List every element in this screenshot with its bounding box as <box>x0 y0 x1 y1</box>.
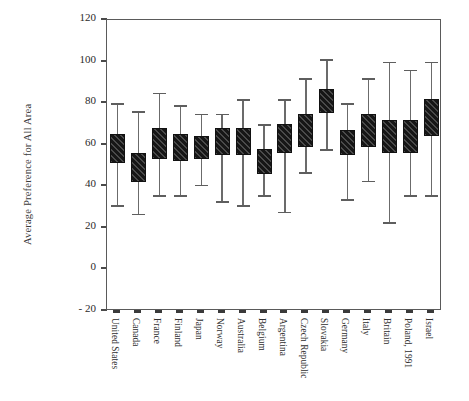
box-whisker-glyph <box>257 124 272 197</box>
box-whisker-glyph <box>131 111 146 215</box>
interquartile-box <box>382 120 397 153</box>
x-axis-category-label: Japan <box>194 318 204 340</box>
interquartile-box <box>298 114 313 147</box>
x-axis-tick <box>343 310 350 313</box>
y-axis-tick-label: 60 <box>38 136 96 148</box>
upper-whisker-line <box>347 103 348 130</box>
upper-whisker-cap <box>153 93 166 95</box>
lower-whisker-line <box>159 157 160 196</box>
lower-whisker-cap <box>383 222 396 224</box>
x-axis-tick <box>385 310 392 313</box>
y-axis-tick-label: 40 <box>38 177 96 189</box>
upper-whisker-line <box>368 78 369 113</box>
x-axis-tick <box>260 310 267 313</box>
x-axis-category-label: Slovakia <box>319 318 329 351</box>
x-axis-category-label: Czech Republic <box>299 318 309 379</box>
lower-whisker-cap <box>341 199 354 201</box>
upper-whisker-cap <box>404 70 417 72</box>
x-axis-category-label: Finland <box>173 318 183 347</box>
x-axis-category-label: Belgium <box>257 318 267 351</box>
box-plot-chart: Average Preference for All Area - 200204… <box>0 0 469 401</box>
lower-whisker-line <box>410 151 411 197</box>
box-whisker-glyph <box>173 105 188 196</box>
lower-whisker-cap <box>258 195 271 197</box>
x-axis-tick <box>427 310 434 313</box>
lower-whisker-cap <box>132 214 145 216</box>
x-axis-tick <box>301 310 308 313</box>
upper-whisker-cap <box>299 78 312 80</box>
interquartile-box <box>215 128 230 155</box>
upper-whisker-line <box>201 114 202 137</box>
upper-whisker-line <box>410 70 411 120</box>
lower-whisker-line <box>368 145 369 182</box>
x-axis-category-label: Norway <box>215 318 225 349</box>
upper-whisker-cap <box>132 111 145 113</box>
y-axis-title-label: Average Preference for All Area <box>22 104 33 245</box>
x-axis-category-label: Britain <box>382 318 392 345</box>
upper-whisker-cap <box>341 103 354 105</box>
y-axis-title: Average Preference for All Area <box>22 0 33 40</box>
x-axis-tick <box>406 310 413 313</box>
lower-whisker-line <box>221 153 222 203</box>
interquartile-box <box>173 134 188 161</box>
box-whisker-glyph <box>277 99 292 213</box>
lower-whisker-line <box>117 161 118 207</box>
upper-whisker-cap <box>320 59 333 61</box>
x-axis-tick <box>239 310 246 313</box>
interquartile-box <box>319 89 334 114</box>
plot-area <box>106 19 441 310</box>
box-whisker-glyph <box>298 78 313 174</box>
interquartile-box <box>403 120 418 153</box>
x-axis-category-label: Canada <box>131 318 141 346</box>
upper-whisker-line <box>221 114 222 129</box>
upper-whisker-line <box>159 93 160 128</box>
box-whisker-glyph <box>361 78 376 182</box>
lower-whisker-line <box>389 151 390 224</box>
interquartile-box <box>131 153 146 182</box>
y-axis-tick-label: 120 <box>38 11 96 23</box>
lower-whisker-line <box>263 172 264 197</box>
box-whisker-glyph <box>236 99 251 207</box>
upper-whisker-line <box>138 111 139 153</box>
interquartile-box <box>152 128 167 159</box>
lower-whisker-cap <box>174 195 187 197</box>
upper-whisker-cap <box>237 99 250 101</box>
upper-whisker-line <box>117 103 118 134</box>
upper-whisker-line <box>263 124 264 149</box>
upper-whisker-cap <box>216 114 229 116</box>
x-axis-tick <box>134 310 141 313</box>
x-axis-category-label: Poland, 1991 <box>403 318 413 368</box>
upper-whisker-line <box>242 99 243 128</box>
lower-whisker-line <box>180 159 181 196</box>
interquartile-box <box>361 114 376 147</box>
x-axis-tick <box>197 310 204 313</box>
interquartile-box <box>110 134 125 163</box>
upper-whisker-cap <box>111 103 124 105</box>
x-axis-tick <box>113 310 120 313</box>
box-whisker-glyph <box>424 62 439 197</box>
lower-whisker-cap <box>320 149 333 151</box>
lower-whisker-line <box>431 134 432 196</box>
lower-whisker-cap <box>362 181 375 183</box>
interquartile-box <box>236 128 251 155</box>
box-whisker-glyph <box>340 103 355 201</box>
lower-whisker-cap <box>195 185 208 187</box>
box-whisker-glyph <box>194 114 209 187</box>
box-whisker-glyph <box>319 59 334 150</box>
upper-whisker-line <box>305 78 306 113</box>
y-axis-tick-label: 80 <box>38 94 96 106</box>
interquartile-box <box>340 130 355 155</box>
x-axis-category-label: France <box>152 318 162 344</box>
x-axis-tick <box>155 310 162 313</box>
box-whisker-glyph <box>382 62 397 224</box>
upper-whisker-line <box>180 105 181 134</box>
lower-whisker-cap <box>111 205 124 207</box>
lower-whisker-cap <box>404 195 417 197</box>
upper-whisker-cap <box>258 124 271 126</box>
upper-whisker-cap <box>174 105 187 107</box>
box-whisker-glyph <box>215 114 230 203</box>
upper-whisker-line <box>389 62 390 120</box>
x-axis-tick <box>322 310 329 313</box>
interquartile-box <box>257 149 272 174</box>
x-axis-category-label: Italy <box>361 318 371 336</box>
